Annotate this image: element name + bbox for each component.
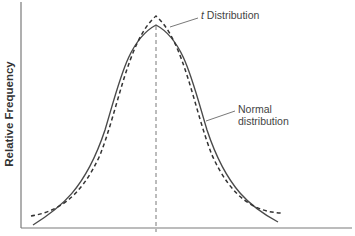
t-label-leader	[170, 18, 198, 27]
normal-distribution-label: Normaldistribution	[238, 103, 289, 127]
normal-label-line2: distribution	[238, 115, 289, 127]
t-label-text: Distribution	[204, 9, 259, 21]
chart-canvas	[0, 0, 355, 236]
normal-label-leader	[206, 111, 235, 121]
normal-label-line1: Normal	[238, 103, 289, 115]
y-axis-label: Relative Frequency	[3, 55, 15, 173]
t-distribution-label: t Distribution	[201, 9, 259, 21]
